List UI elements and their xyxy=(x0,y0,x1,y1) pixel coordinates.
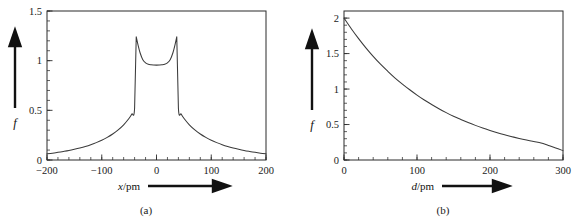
data-curve xyxy=(344,18,563,151)
x-tick-label: 300 xyxy=(555,165,571,176)
y-tick-label: 2 xyxy=(334,13,339,24)
plot-frame xyxy=(47,11,266,160)
y-tick-label: 1 xyxy=(334,84,339,95)
panel-a-xlabel: x/pm xyxy=(117,180,140,192)
panel-a-plot: −200−100010020000.511.5 xyxy=(29,6,274,176)
x-tick-label: 100 xyxy=(409,165,425,176)
panel-b-ylabel: f xyxy=(310,118,315,132)
y-tick-label: 1 xyxy=(37,55,42,66)
plot-frame xyxy=(344,11,563,160)
x-tick-label: −100 xyxy=(91,165,113,176)
y-tick-label: 0.5 xyxy=(29,105,42,116)
panel-a-ylabel: f xyxy=(13,116,18,130)
panel-a-yaxis-arrow xyxy=(10,30,21,108)
figure-container: f −200−100010020000.511.5 x/pm (a) f 010… xyxy=(0,0,572,222)
panel-a-xaxis-label-group: x/pm xyxy=(117,180,229,192)
y-tick-label: 0.5 xyxy=(326,119,339,130)
data-curve xyxy=(47,37,266,154)
panel-a-subcaption: (a) xyxy=(140,204,153,217)
y-tick-label: 1.5 xyxy=(326,48,339,59)
panel-b-xlabel: d/pm xyxy=(411,180,434,192)
x-tick-label: 0 xyxy=(154,165,159,176)
panel-b-xaxis-label-group: d/pm xyxy=(411,180,509,192)
x-tick-label: −200 xyxy=(36,165,58,176)
x-tick-label: 200 xyxy=(482,165,498,176)
panel-b-svg: f 010020030000.511.52 d/pm (b) xyxy=(286,0,572,222)
x-tick-label: 200 xyxy=(258,165,274,176)
x-tick-label: 100 xyxy=(203,165,219,176)
x-tick-label: 0 xyxy=(341,165,346,176)
panel-a-svg: f −200−100010020000.511.5 x/pm (a) xyxy=(0,0,286,222)
y-tick-label: 1.5 xyxy=(29,6,42,17)
panel-b: f 010020030000.511.52 d/pm (b) xyxy=(286,0,572,222)
panel-b-yaxis-arrow xyxy=(307,32,318,110)
panel-b-subcaption: (b) xyxy=(437,204,450,217)
panel-b-plot: 010020030000.511.52 xyxy=(326,11,571,176)
panel-a: f −200−100010020000.511.5 x/pm (a) xyxy=(0,0,286,222)
y-tick-label: 0 xyxy=(37,155,42,166)
y-tick-label: 0 xyxy=(334,155,339,166)
